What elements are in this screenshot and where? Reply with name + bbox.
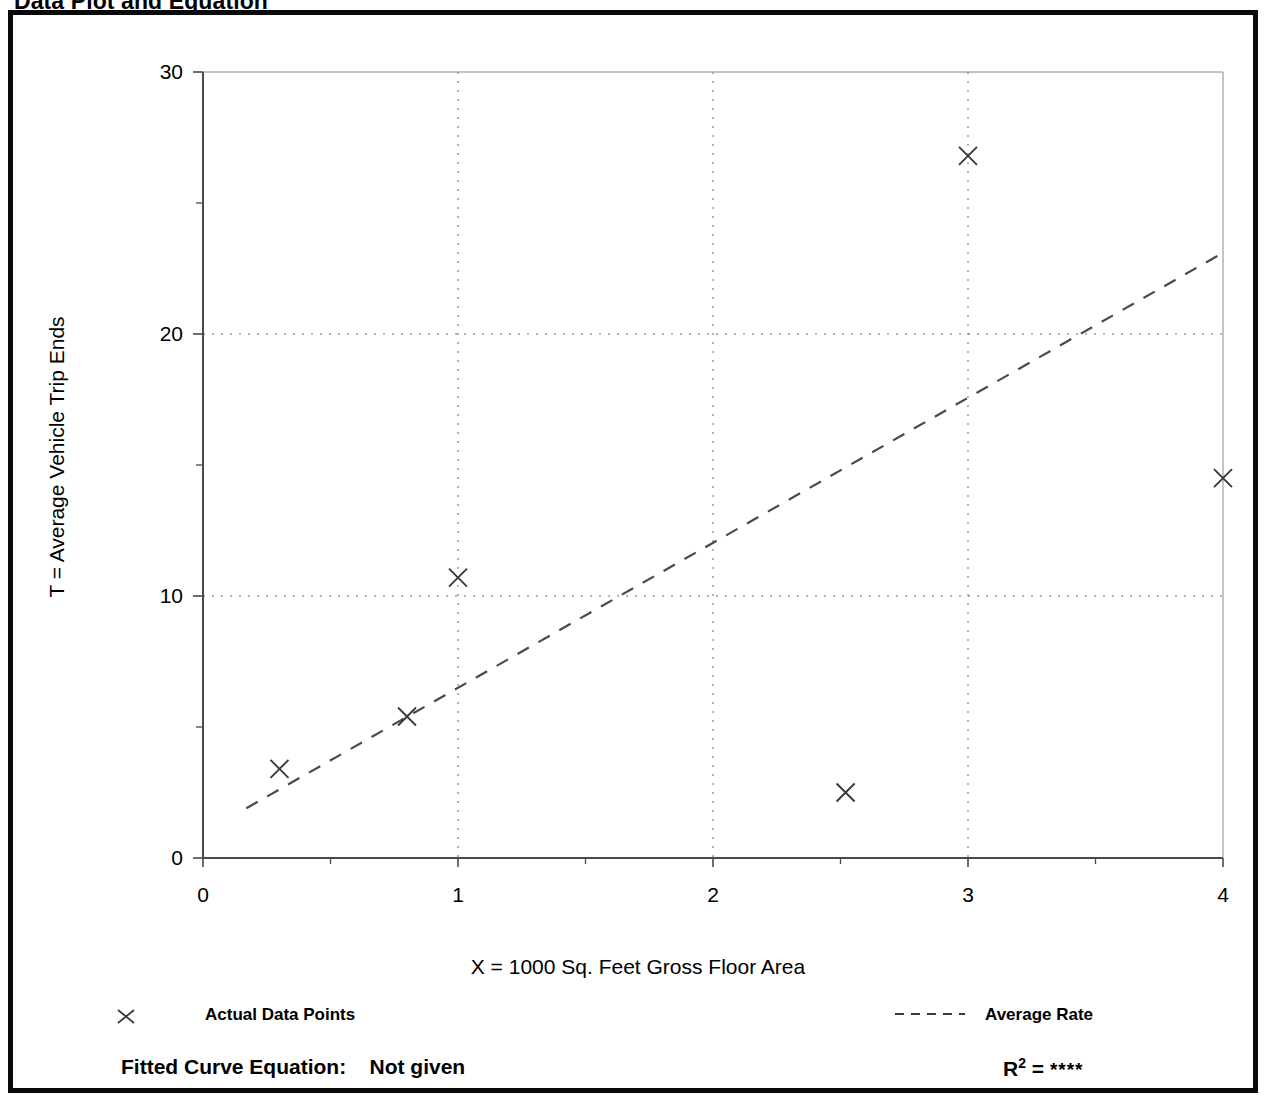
svg-text:0: 0 xyxy=(171,846,183,869)
svg-text:4: 4 xyxy=(1217,883,1229,906)
equation-label: Fitted Curve Equation: xyxy=(121,1055,346,1078)
svg-text:2: 2 xyxy=(707,883,719,906)
r-squared-value: R2 = **** xyxy=(1003,1055,1084,1081)
svg-text:10: 10 xyxy=(160,584,183,607)
gridlines-group xyxy=(203,72,1223,858)
legend-item-data-points: Actual Data Points xyxy=(113,1005,355,1025)
fitted-curve-equation: Fitted Curve Equation: Not given xyxy=(121,1055,465,1079)
axes-group xyxy=(193,72,1223,867)
legend-label-average-rate: Average Rate xyxy=(985,1005,1093,1025)
x-axis-title: X = 1000 Sq. Feet Gross Floor Area xyxy=(13,955,1263,979)
tick-labels-group: 012340102030 xyxy=(160,60,1230,906)
y-axis-title: T = Average Vehicle Trip Ends xyxy=(45,247,69,667)
data-points-group xyxy=(271,147,1233,802)
r-squared-exponent: 2 xyxy=(1018,1055,1026,1071)
chart-plot-area: 012340102030 xyxy=(13,15,1263,1098)
r-squared-stars: **** xyxy=(1050,1059,1084,1080)
average-rate-line xyxy=(246,253,1223,808)
r-squared-equals: = xyxy=(1032,1057,1044,1080)
legend-item-average-rate: Average Rate xyxy=(893,1005,1093,1025)
svg-text:30: 30 xyxy=(160,60,183,83)
equation-value: Not given xyxy=(370,1055,466,1078)
svg-text:3: 3 xyxy=(962,883,974,906)
figure-frame: 012340102030 T = Average Vehicle Trip En… xyxy=(8,10,1258,1093)
scatter-plot-svg: 012340102030 xyxy=(13,15,1263,1098)
dashed-line-icon xyxy=(893,1006,967,1024)
r-squared-label: R xyxy=(1003,1057,1018,1080)
svg-text:1: 1 xyxy=(452,883,464,906)
svg-text:0: 0 xyxy=(197,883,209,906)
svg-text:20: 20 xyxy=(160,322,183,345)
legend-label-data-points: Actual Data Points xyxy=(205,1005,355,1025)
x-marker-icon xyxy=(113,1006,187,1024)
